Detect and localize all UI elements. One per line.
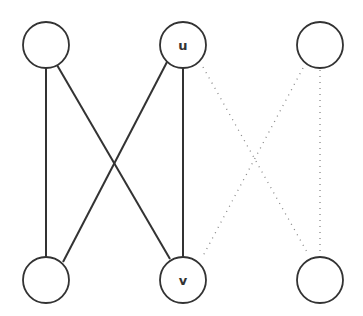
edge-c-v bbox=[203, 68, 303, 256]
node-a bbox=[23, 22, 69, 68]
node-f bbox=[297, 257, 343, 303]
graph-diagram: u v bbox=[0, 0, 363, 316]
node-v-label: v bbox=[179, 273, 188, 288]
node-u-label: u bbox=[178, 38, 187, 53]
edge-u-d bbox=[63, 62, 167, 262]
edge-a-v bbox=[57, 65, 170, 259]
node-d bbox=[23, 257, 69, 303]
edge-u-f bbox=[203, 67, 307, 252]
node-c bbox=[297, 22, 343, 68]
